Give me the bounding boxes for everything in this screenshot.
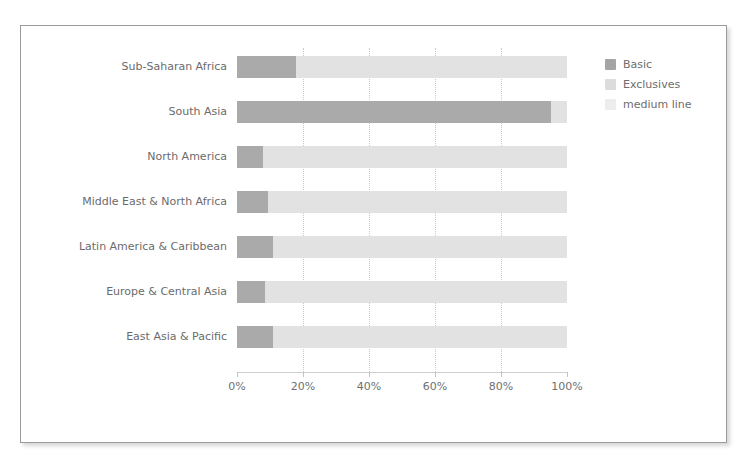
- legend-label: medium line: [623, 98, 692, 111]
- stacked-bar-row[interactable]: [237, 191, 567, 213]
- y-axis-category-label: Sub-Saharan Africa: [21, 56, 227, 78]
- bar-segment-basic[interactable]: [237, 281, 265, 303]
- x-axis-tick-label: 80%: [471, 380, 531, 393]
- x-axis-tick: [237, 372, 238, 377]
- bar-segment-exclusives[interactable]: [265, 281, 567, 303]
- bar-segment-exclusives[interactable]: [551, 101, 568, 123]
- x-axis-tick-label: 20%: [273, 380, 333, 393]
- stacked-bar-row[interactable]: [237, 146, 567, 168]
- y-axis-category-label: South Asia: [21, 101, 227, 123]
- x-axis-tick-label: 100%: [537, 380, 597, 393]
- bar-segment-basic[interactable]: [237, 146, 263, 168]
- legend-swatch-medium-icon: [605, 99, 616, 110]
- y-axis-category-label: East Asia & Pacific: [21, 326, 227, 348]
- legend-item-medium-line[interactable]: medium line: [605, 94, 725, 114]
- x-axis-tick-label: 0%: [207, 380, 267, 393]
- bar-segment-basic[interactable]: [237, 191, 268, 213]
- legend-swatch-exclusives-icon: [605, 79, 616, 90]
- bar-segment-basic[interactable]: [237, 101, 551, 123]
- x-axis-tick: [567, 372, 568, 377]
- bar-segment-exclusives[interactable]: [273, 326, 567, 348]
- legend-label: Exclusives: [623, 78, 680, 91]
- x-axis-tick: [435, 372, 436, 377]
- x-axis-tick: [369, 372, 370, 377]
- bar-segment-basic[interactable]: [237, 56, 296, 78]
- y-axis-category-label: Latin America & Caribbean: [21, 236, 227, 258]
- x-axis-baseline: [237, 372, 568, 373]
- x-axis-tick-label: 40%: [339, 380, 399, 393]
- legend-label: Basic: [623, 58, 652, 71]
- y-axis-category-label: Europe & Central Asia: [21, 281, 227, 303]
- y-axis-category-label: North America: [21, 146, 227, 168]
- stacked-bar-row[interactable]: [237, 56, 567, 78]
- x-axis-tick: [501, 372, 502, 377]
- stacked-bar-row[interactable]: [237, 281, 567, 303]
- bar-segment-basic[interactable]: [237, 236, 273, 258]
- x-axis-tick: [303, 372, 304, 377]
- x-axis-tick-label: 60%: [405, 380, 465, 393]
- bar-segment-exclusives[interactable]: [268, 191, 567, 213]
- bar-segment-exclusives[interactable]: [296, 56, 567, 78]
- bar-segment-exclusives[interactable]: [273, 236, 567, 258]
- stacked-bar-row[interactable]: [237, 101, 567, 123]
- bar-segment-exclusives[interactable]: [263, 146, 567, 168]
- legend-item-basic[interactable]: Basic: [605, 54, 725, 74]
- bar-segment-basic[interactable]: [237, 326, 273, 348]
- stacked-bar-row[interactable]: [237, 326, 567, 348]
- chart-card: 0%20%40%60%80%100%Sub-Saharan AfricaSout…: [20, 25, 727, 443]
- legend-item-exclusives[interactable]: Exclusives: [605, 74, 725, 94]
- chart-legend: BasicExclusivesmedium line: [605, 54, 725, 114]
- stacked-bar-row[interactable]: [237, 236, 567, 258]
- y-axis-category-label: Middle East & North Africa: [21, 191, 227, 213]
- legend-swatch-basic-icon: [605, 59, 616, 70]
